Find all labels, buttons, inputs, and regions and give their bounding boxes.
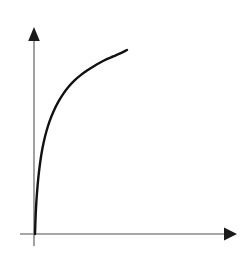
chart-canvas (0, 0, 248, 254)
figure-container (0, 0, 248, 254)
